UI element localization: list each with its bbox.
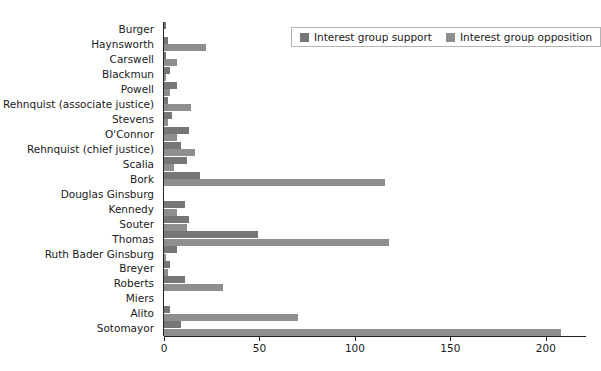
category-label: Burger: [0, 22, 160, 37]
bar-support: [164, 306, 170, 313]
bar-row: [164, 97, 584, 112]
bar-support: [164, 112, 172, 119]
bar-support: [164, 52, 166, 59]
bar-row: [164, 157, 584, 172]
legend-item[interactable]: Interest group opposition: [446, 32, 592, 43]
category-label: Rehnquist (chief justice): [0, 142, 160, 157]
category-label: Roberts: [0, 276, 160, 291]
bar-opposition: [164, 224, 187, 231]
x-axis-tick: [164, 337, 165, 341]
x-axis-tick-label: 0: [161, 343, 168, 354]
bar-opposition: [164, 134, 177, 141]
bar-row: [164, 82, 584, 97]
bar-support: [164, 97, 168, 104]
bar-opposition: [164, 239, 389, 246]
category-label: Douglas Ginsburg: [0, 186, 160, 201]
bar-opposition: [164, 104, 191, 111]
bar-row: [164, 142, 584, 157]
bar-support: [164, 261, 170, 268]
bar-row: [164, 201, 584, 216]
bar-opposition: [164, 44, 206, 51]
bar-support: [164, 276, 185, 283]
x-axis-tick-label: 150: [440, 343, 460, 354]
legend-swatch-icon: [446, 33, 455, 42]
bar-support: [164, 172, 200, 179]
category-label: Breyer: [0, 261, 160, 276]
bar-opposition: [164, 119, 168, 126]
category-label: Haynsworth: [0, 37, 160, 52]
legend-swatch-icon: [300, 33, 309, 42]
legend-item[interactable]: Interest group support: [300, 32, 432, 43]
category-label: Thomas: [0, 231, 160, 246]
bar-support: [164, 67, 170, 74]
bar-support: [164, 157, 187, 164]
bar-row: [164, 261, 584, 276]
category-label: Blackmun: [0, 67, 160, 82]
bar-support: [164, 216, 189, 223]
x-axis-tick: [450, 337, 451, 341]
category-label: Bork: [0, 172, 160, 187]
bar-row: [164, 321, 584, 336]
category-axis-labels: BurgerHaynsworthCarswellBlackmunPowellRe…: [0, 22, 160, 336]
category-label: Alito: [0, 306, 160, 321]
bar-opposition: [164, 74, 166, 81]
bar-support: [164, 142, 181, 149]
bar-row: [164, 216, 584, 231]
bar-row: [164, 276, 584, 291]
x-axis-tick-label: 100: [345, 343, 365, 354]
category-label: Sotomayor: [0, 321, 160, 336]
bar-support: [164, 82, 177, 89]
bar-opposition: [164, 329, 561, 336]
x-axis-line: [164, 336, 586, 337]
category-label: Kennedy: [0, 201, 160, 216]
bar-support: [164, 246, 177, 253]
bar-opposition: [164, 164, 174, 171]
bar-opposition: [164, 269, 168, 276]
legend-label: Interest group support: [314, 32, 432, 43]
bar-row: [164, 246, 584, 261]
category-label: Scalia: [0, 157, 160, 172]
bar-row: [164, 67, 584, 82]
bar-row: [164, 186, 584, 201]
bar-row: [164, 172, 584, 187]
y-axis-line: [163, 22, 164, 336]
category-label: Powell: [0, 82, 160, 97]
bar-support: [164, 37, 168, 44]
bar-row: [164, 112, 584, 127]
bar-row: [164, 127, 584, 142]
bar-opposition: [164, 89, 170, 96]
x-axis-tick-label: 200: [536, 343, 556, 354]
bar-opposition: [164, 149, 195, 156]
category-label: Miers: [0, 291, 160, 306]
category-label: Carswell: [0, 52, 160, 67]
bar-row: [164, 52, 584, 67]
category-label: Ruth Bader Ginsburg: [0, 246, 160, 261]
x-axis-tick-label: 50: [253, 343, 266, 354]
bar-support: [164, 127, 189, 134]
category-label: Rehnquist (associate justice): [0, 97, 160, 112]
legend-label: Interest group opposition: [460, 32, 592, 43]
bar-row: [164, 231, 584, 246]
bar-opposition: [164, 254, 166, 261]
plot-area: [164, 22, 584, 336]
bar-support: [164, 201, 185, 208]
bar-opposition: [164, 59, 177, 66]
bar-opposition: [164, 179, 385, 186]
category-label: Stevens: [0, 112, 160, 127]
x-axis-tick: [259, 337, 260, 341]
bar-support: [164, 321, 181, 328]
category-label: Souter: [0, 216, 160, 231]
bar-support: [164, 22, 166, 29]
category-label: O'Connor: [0, 127, 160, 142]
bar-row: [164, 306, 584, 321]
x-axis-tick: [355, 337, 356, 341]
chart-legend: Interest group supportInterest group opp…: [291, 27, 601, 47]
bar-support: [164, 231, 258, 238]
x-axis-tick: [546, 337, 547, 341]
bar-opposition: [164, 209, 177, 216]
bar-opposition: [164, 314, 298, 321]
bar-opposition: [164, 284, 223, 291]
bar-row: [164, 291, 584, 306]
